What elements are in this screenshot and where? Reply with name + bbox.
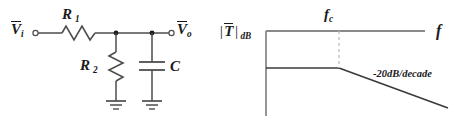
resistor-r1-symbol: R [62, 6, 72, 22]
input-voltage-subscript: i [21, 29, 24, 39]
rolloff-slope-text: -20dB/decade [373, 68, 432, 79]
resistor-r2-label: R2 [80, 57, 98, 75]
resistor-r1-subscript: 1 [75, 14, 80, 24]
corner-frequency-subscript: c [329, 14, 333, 24]
magnitude-bar-left: | [219, 23, 223, 39]
rolloff-slope-annotation: -20dB/decade [373, 68, 432, 79]
resistor-r2-subscript: 2 [93, 65, 98, 75]
output-voltage-label: Vo [177, 21, 192, 39]
capacitor-c-label: C [170, 58, 180, 75]
ground-symbol-r2-icon [106, 101, 126, 109]
transfer-function-symbol: T [224, 23, 233, 39]
frequency-axis-label: f [436, 22, 441, 40]
input-terminal-icon [33, 30, 38, 35]
magnitude-bar-right: | [234, 23, 238, 39]
circuit-group [33, 26, 174, 109]
capacitor-c-symbol: C [170, 58, 180, 74]
resistor-r1-label: R1 [62, 6, 80, 24]
output-voltage-symbol: V [177, 21, 187, 37]
output-voltage-subscript: o [187, 29, 192, 39]
resistor-r2-icon [109, 52, 123, 81]
output-terminal-icon [169, 30, 174, 35]
decibel-subscript: dB [240, 31, 251, 41]
frequency-symbol: f [436, 22, 441, 39]
resistor-r2-symbol: R [80, 57, 90, 73]
resistor-r1-icon [62, 26, 95, 40]
plot-y-axis-label: |T|dB [219, 23, 251, 41]
corner-frequency-label: fc [324, 6, 333, 24]
input-voltage-symbol: V [11, 21, 21, 37]
input-voltage-label: Vi [11, 21, 24, 39]
figure-canvas: Vi Vo R1 R2 C |T|dB fc f -20dB/decade [0, 0, 467, 121]
ground-symbol-c-icon [142, 101, 162, 109]
